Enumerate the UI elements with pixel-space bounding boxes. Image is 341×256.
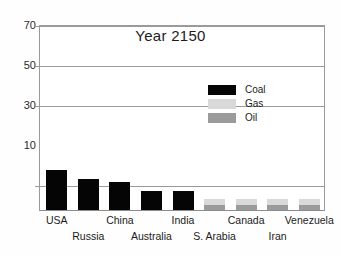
legend-label-coal: Coal bbox=[245, 85, 266, 95]
legend-swatch-gas bbox=[208, 99, 236, 109]
x-label-australia: Australia bbox=[131, 231, 172, 242]
bar-segment-oil bbox=[204, 205, 225, 210]
legend: Coal Gas Oil bbox=[208, 84, 308, 126]
legend-swatch-oil bbox=[208, 113, 236, 123]
x-label-canada: Canada bbox=[228, 215, 265, 226]
bar-russia bbox=[78, 179, 99, 210]
y-tick-10: 10 bbox=[8, 140, 36, 151]
bar-segment-coal bbox=[109, 182, 130, 210]
y-tick-30: 30 bbox=[8, 100, 36, 111]
bar-s-arabia bbox=[204, 199, 225, 210]
legend-item-gas: Gas bbox=[208, 98, 308, 110]
bar-india bbox=[173, 191, 194, 210]
bar-segment-coal bbox=[46, 170, 67, 210]
bar-china bbox=[109, 182, 130, 210]
chart-title: Year 2150 bbox=[0, 27, 341, 44]
x-label-usa: USA bbox=[46, 215, 68, 226]
bar-canada bbox=[236, 199, 257, 210]
bar-venezuela bbox=[299, 199, 320, 210]
x-label-iran: Iran bbox=[269, 231, 287, 242]
legend-label-gas: Gas bbox=[245, 99, 263, 109]
x-label-china: China bbox=[106, 215, 133, 226]
bar-australia bbox=[141, 191, 162, 210]
legend-item-coal: Coal bbox=[208, 84, 308, 96]
bar-segment-oil bbox=[236, 205, 257, 210]
bar-segment-coal bbox=[173, 191, 194, 210]
x-label-venezuela: Venezuela bbox=[285, 215, 334, 226]
x-label-s-arabia: S. Arabia bbox=[193, 231, 236, 242]
bar-iran bbox=[267, 199, 288, 210]
bar-segment-coal bbox=[78, 179, 99, 210]
bar-segment-oil bbox=[299, 205, 320, 210]
bar-segment-oil bbox=[267, 205, 288, 210]
x-label-india: India bbox=[172, 215, 195, 226]
legend-swatch-coal bbox=[208, 85, 236, 95]
bar-chart: 70 50 30 10 Year 2150 Coal Gas Oil USARu… bbox=[0, 0, 341, 256]
y-tick-50: 50 bbox=[8, 60, 36, 71]
x-label-russia: Russia bbox=[72, 231, 104, 242]
bar-segment-coal bbox=[141, 191, 162, 210]
legend-label-oil: Oil bbox=[245, 113, 257, 123]
bar-usa bbox=[46, 170, 67, 210]
legend-item-oil: Oil bbox=[208, 112, 308, 124]
